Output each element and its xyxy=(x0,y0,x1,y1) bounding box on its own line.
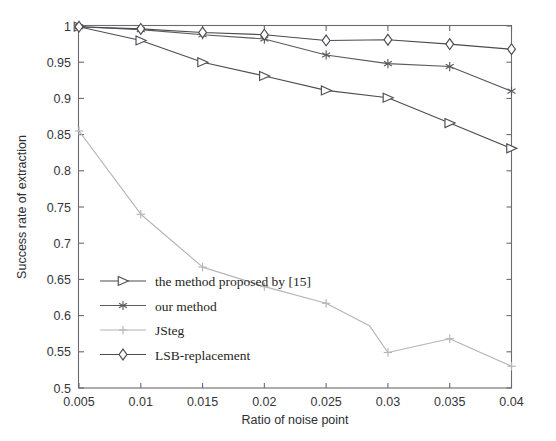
x-axis-title: Ratio of noise point xyxy=(241,413,349,427)
x-tick-label: 0.015 xyxy=(187,395,218,409)
legend-label: LSB-replacement xyxy=(155,348,250,363)
y-tick-label: 0.85 xyxy=(47,128,71,142)
legend-label: our method xyxy=(155,299,217,314)
y-tick-label: 0.6 xyxy=(54,309,71,323)
x-tick-label: 0.005 xyxy=(63,395,94,409)
x-tick-label: 0.01 xyxy=(129,395,153,409)
y-tick-label: 0.9 xyxy=(54,92,71,106)
y-tick-label: 0.7 xyxy=(54,237,71,251)
x-tick-label: 0.02 xyxy=(252,395,276,409)
y-tick-label: 0.55 xyxy=(47,345,71,359)
x-tick-label: 0.025 xyxy=(311,395,342,409)
y-tick-label: 0.5 xyxy=(54,382,71,396)
line-chart-canvas: 0.50.550.60.650.70.750.80.850.90.951 0.0… xyxy=(0,0,556,441)
x-tick-label: 0.03 xyxy=(376,395,400,409)
y-axis-title: Success rate of extraction xyxy=(15,135,29,279)
chart-background xyxy=(0,0,556,441)
x-tick-label: 0.035 xyxy=(434,395,465,409)
y-tick-label: 0.65 xyxy=(47,273,71,287)
y-tick-label: 0.8 xyxy=(54,164,71,178)
x-tick-label: 0.04 xyxy=(499,395,523,409)
chart-figure: 0.50.550.60.650.70.750.80.850.90.951 0.0… xyxy=(0,0,556,441)
y-tick-label: 0.95 xyxy=(47,56,71,70)
legend-label: the method proposed by [15] xyxy=(155,274,311,289)
legend-label: JSteg xyxy=(155,323,185,338)
y-tick-label: 1 xyxy=(64,20,71,34)
legend-entry[interactable]: LSB-replacement xyxy=(100,348,250,363)
y-tick-label: 0.75 xyxy=(47,201,71,215)
